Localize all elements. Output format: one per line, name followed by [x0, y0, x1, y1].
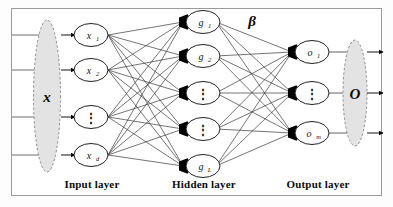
hidden-node-label: g [199, 161, 204, 172]
hidden-node[interactable]: g 1 [186, 11, 220, 34]
vertical-dots-icon: ⋮ [85, 111, 97, 125]
input-node-subscript: 1 [96, 35, 99, 42]
hidden-node[interactable]: g 2 [186, 45, 220, 68]
vertical-dots-icon: ⋮ [197, 87, 209, 101]
caption-output-layer: Output layer [263, 178, 373, 190]
hidden-node-label: g [199, 51, 204, 62]
hidden-node-ellipsis: ⋮ [186, 82, 220, 105]
figure-canvas: x [0, 0, 393, 207]
input-node-label: x [86, 65, 92, 76]
input-bundle-label: x [42, 89, 51, 105]
hidden-node[interactable]: g L [186, 155, 220, 178]
input-node[interactable]: x 1 [74, 24, 108, 47]
vertical-dots-icon: ⋮ [306, 87, 318, 101]
output-layer-nodes: o 1 ⋮ o m [295, 41, 329, 145]
input-node-label: x [86, 30, 92, 41]
input-layer-nodes: x 1 x 2 ⋮ x d [74, 24, 108, 167]
network-diagram: x [0, 0, 393, 207]
input-hidden-connections [108, 22, 183, 166]
output-bundle-label: O [350, 86, 361, 102]
beta-weight-label: β [247, 13, 256, 29]
output-node-label: o [307, 128, 312, 139]
vertical-dots-icon: ⋮ [197, 123, 209, 137]
input-node-ellipsis: ⋮ [74, 106, 108, 129]
bundle-to-input-arrows [61, 35, 75, 155]
output-node-label: o [308, 47, 313, 58]
input-node[interactable]: x 2 [74, 59, 108, 82]
output-node-ellipsis: ⋮ [295, 82, 329, 105]
output-node[interactable]: o 1 [295, 41, 329, 64]
hidden-node-subscript: L [207, 166, 212, 173]
caption-input-layer: Input layer [40, 178, 144, 190]
output-node[interactable]: o m [295, 122, 329, 145]
output-node-subscript: 1 [317, 52, 320, 59]
hidden-node-ellipsis: ⋮ [186, 118, 220, 141]
input-node[interactable]: x d [74, 144, 108, 167]
hidden-layer-nodes: g 1 g 2 ⋮ ⋮ g L [186, 11, 220, 178]
caption-hidden-layer: Hidden layer [150, 178, 258, 190]
input-node-label: x [86, 150, 92, 161]
hidden-node-label: g [199, 17, 204, 28]
external-output-arrows [367, 52, 383, 133]
output-node-subscript: m [316, 133, 321, 140]
hidden-node-subscript: 1 [208, 22, 211, 29]
hidden-output-connections [216, 22, 292, 166]
